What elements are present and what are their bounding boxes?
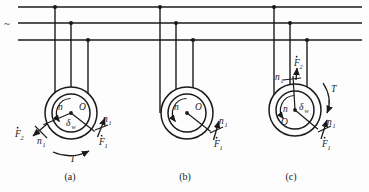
speed-n1-top-text: n [275,72,280,82]
bus-connection-dot-b-1 [158,5,162,9]
motor-diagram-svg: ~ nOδwF2n1n1F1T(a)nOn1F1(b)F2n1nδwOTn1F1… [0,0,369,192]
center-point-O: O [281,117,288,127]
torque-T-text: T [70,154,76,164]
figure-canvas: ~ nOδwF2n1n1F1T(a)nOn1F1(b)F2n1nδwOTn1F1… [0,0,369,192]
force-F2-subscript: 2 [300,63,303,70]
motor-panel-b [158,5,223,140]
bus-connection-dot-c-3 [305,38,309,42]
center-point-O: O [195,102,202,112]
rotor-speed-n-text: n [283,104,288,114]
bus-connection-dot-c-2 [288,21,292,25]
force-F2: F2 [293,56,303,70]
force-F2: F2 [14,127,24,141]
force-F1-subscript: 1 [105,142,108,149]
bus-connection-dot-b-2 [174,21,178,25]
center-point-O-text: O [281,117,288,127]
speed-n1-right-text: n [103,114,108,124]
force-F1: F1 [213,137,223,151]
angle-delta-w-text: δ [299,102,304,112]
motor-panel-a [33,5,108,156]
force-F2-arrow-a [33,124,47,136]
force-F1-subscript: 1 [220,144,223,151]
speed-n1-left: n1 [37,136,46,148]
torque-T: T [70,154,76,164]
speed-n1-right-subscript: 1 [333,122,336,129]
force-F2-subscript: 2 [21,134,24,141]
bus-connection-dot-a-2 [69,21,73,25]
speed-n1-left-text: n [37,136,42,146]
radius-to-F2-c [293,76,295,110]
speed-n1-right-text: n [219,116,224,126]
force-F1-phasor-dot [324,137,326,139]
force-F1-phasor-dot [216,137,218,139]
rotor-speed-n: n [283,104,288,114]
speed-n1-tick-top-c [283,78,301,80]
force-F1-phasor-dot [101,135,103,137]
center-point-O: O [79,102,86,112]
torque-T-text: T [331,84,337,94]
speed-n1-right: n1 [103,114,112,126]
rotor-speed-n-text: n [174,102,179,112]
bus-connection-dot-c-1 [272,5,276,9]
angle-delta-w: δw [299,102,310,114]
speed-n1-top: n1 [275,72,284,84]
supply-bus-layer: ~ [4,7,362,40]
panel-caption-c: (c) [285,171,296,183]
center-point-O-text: O [79,102,86,112]
motor-panels-layer [33,5,331,156]
supply-symbol-tilde: ~ [4,17,10,29]
force-F1: F1 [98,135,108,149]
angle-delta-w-text: δ [66,118,71,128]
force-F2-phasor-dot [17,127,19,129]
torque-T: T [331,84,337,94]
bus-connection-dot-b-3 [191,38,195,42]
speed-n1-top-subscript: 1 [281,77,284,84]
force-F1: F1 [321,137,331,151]
panel-caption-b: (b) [179,171,191,183]
speed-n1-left-subscript: 1 [43,141,46,148]
angle-delta-w: δw [66,118,77,130]
bus-connection-dot-a-3 [86,38,90,42]
speed-n1-right-text: n [327,117,332,127]
angle-delta-w-subscript: w [305,107,310,114]
angle-delta-w-subscript: w [72,123,77,130]
force-F2-phasor-dot [296,56,298,58]
rotor-speed-n-text: n [58,102,63,112]
speed-n1-right: n1 [219,116,228,128]
speed-n1-right-subscript: 1 [225,121,228,128]
speed-n1-right-subscript: 1 [109,119,112,126]
panel-caption-a: (a) [64,171,75,183]
rotor-speed-n: n [174,102,179,112]
force-F1-subscript: 1 [328,144,331,151]
torque-arc-c [323,83,329,113]
center-point-O-text: O [195,102,202,112]
rotor-speed-n: n [58,102,63,112]
bus-connection-dot-a-1 [53,5,57,9]
